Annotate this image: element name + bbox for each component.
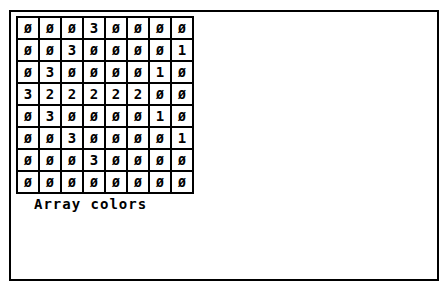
array-cell: Ø (40, 150, 62, 172)
array-cell: Ø (150, 150, 172, 172)
array-cell: 3 (40, 106, 62, 128)
array-cell: Ø (40, 40, 62, 62)
array-cell: Ø (62, 106, 84, 128)
array-cell: Ø (106, 18, 128, 40)
array-cell: Ø (40, 172, 62, 194)
array-cell: 1 (150, 106, 172, 128)
array-cell: Ø (106, 172, 128, 194)
array-cell: Ø (150, 40, 172, 62)
array-cell: Ø (106, 150, 128, 172)
array-cell: Ø (18, 18, 40, 40)
array-cell: 3 (84, 150, 106, 172)
array-cell: Ø (106, 128, 128, 150)
array-cell: Ø (62, 172, 84, 194)
array-cell: Ø (40, 18, 62, 40)
array-cell: Ø (62, 62, 84, 84)
array-cell: Ø (150, 84, 172, 106)
array-cell: 2 (62, 84, 84, 106)
array-cell: Ø (84, 62, 106, 84)
array-cell: Ø (18, 172, 40, 194)
array-cell: 3 (18, 84, 40, 106)
array-cell: Ø (18, 40, 40, 62)
array-cell: Ø (172, 106, 194, 128)
array-cell: Ø (150, 128, 172, 150)
array-cell: Ø (18, 62, 40, 84)
array-cell: Ø (128, 62, 150, 84)
array-cell: Ø (172, 150, 194, 172)
array-cell: 2 (106, 84, 128, 106)
array-cell: Ø (128, 172, 150, 194)
array-cell: Ø (84, 128, 106, 150)
array-cell: 2 (128, 84, 150, 106)
array-cell: 1 (172, 128, 194, 150)
array-cell: Ø (128, 128, 150, 150)
array-cell: Ø (18, 150, 40, 172)
array-cell: Ø (128, 40, 150, 62)
array-cell: Ø (150, 18, 172, 40)
array-cell: 3 (62, 40, 84, 62)
array-cell: 3 (84, 18, 106, 40)
array-cell: 3 (40, 62, 62, 84)
array-cell: Ø (128, 106, 150, 128)
array-cell: Ø (106, 62, 128, 84)
array-cell: 1 (150, 62, 172, 84)
array-cell: Ø (84, 172, 106, 194)
array-cell: Ø (128, 150, 150, 172)
array-cell: Ø (150, 172, 172, 194)
array-cell: Ø (62, 150, 84, 172)
array-cell: Ø (84, 40, 106, 62)
array-cell: 2 (40, 84, 62, 106)
array-cell: Ø (62, 18, 84, 40)
array-cell: Ø (18, 128, 40, 150)
array-cell: Ø (172, 84, 194, 106)
array-cell: Ø (128, 18, 150, 40)
array-cell: Ø (106, 106, 128, 128)
array-caption: Array colors (34, 196, 147, 212)
array-cell: Ø (40, 128, 62, 150)
array-cell: Ø (106, 40, 128, 62)
array-grid: ØØØ3ØØØØØØ3ØØØØ1Ø3ØØØØ1Ø322222ØØØ3ØØØØ1Ø… (16, 16, 194, 194)
array-cell: Ø (172, 18, 194, 40)
array-cell: 1 (172, 40, 194, 62)
array-cell: Ø (172, 172, 194, 194)
array-cell: Ø (84, 106, 106, 128)
array-cell: Ø (18, 106, 40, 128)
array-cell: 2 (84, 84, 106, 106)
array-cell: Ø (172, 62, 194, 84)
array-cell: 3 (62, 128, 84, 150)
